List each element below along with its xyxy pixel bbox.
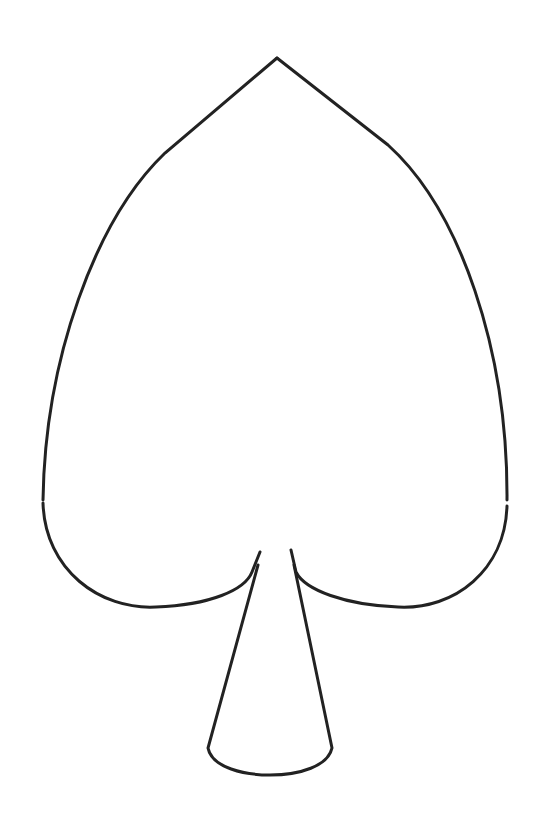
spade-blade-right-edge — [277, 58, 507, 500]
spade-diagram — [0, 0, 549, 819]
spade-icon — [43, 58, 507, 775]
spade-lobe-left — [43, 503, 260, 607]
spade-stem — [208, 565, 332, 775]
spade-lobe-right — [291, 506, 507, 607]
spade-blade-left-edge — [43, 58, 277, 500]
